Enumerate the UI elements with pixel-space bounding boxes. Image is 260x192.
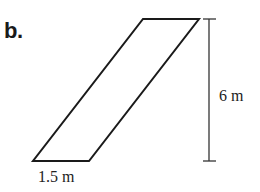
parallelogram-shape <box>33 19 199 161</box>
height-label: 6 m <box>219 87 244 104</box>
parallelogram-figure: 6 m 1.5 m <box>0 0 260 192</box>
base-label: 1.5 m <box>38 168 75 185</box>
height-dimension-line <box>203 19 216 161</box>
